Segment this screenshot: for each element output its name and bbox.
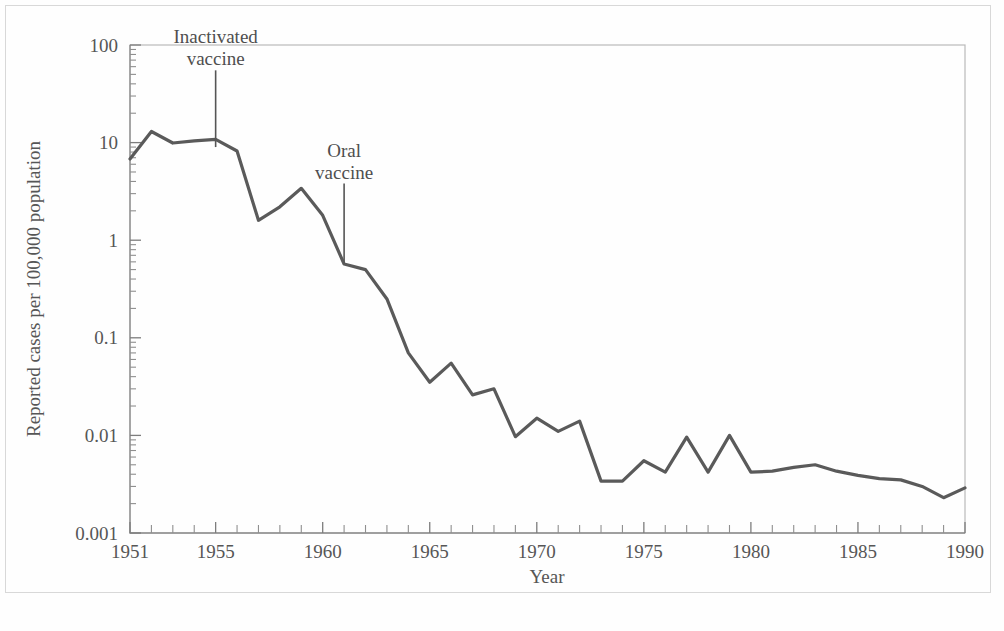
annotation-group: InactivatedvaccineOralvaccine <box>173 26 373 263</box>
x-tick-label: 1975 <box>625 541 663 562</box>
x-tick-label: 1980 <box>732 541 770 562</box>
figure-page: 1001010.10.010.001 195119551960196519701… <box>0 0 1004 631</box>
annotation-label-inactivated-vaccine-line1: Inactivated <box>173 26 258 47</box>
annotation-label-oral-vaccine-line1: Oral <box>327 140 361 161</box>
x-axis-tick-labels: 195119551960196519701975198019851990 <box>111 541 984 562</box>
x-tick-label: 1965 <box>411 541 449 562</box>
y-tick-label: 100 <box>90 35 119 56</box>
y-tick-label: 0.1 <box>94 327 118 348</box>
data-series-line <box>130 131 965 497</box>
x-axis-ticks <box>130 522 965 533</box>
annotation-label-inactivated-vaccine-line2: vaccine <box>187 48 245 69</box>
polio-incidence-line-chart: 1001010.10.010.001 195119551960196519701… <box>0 0 1004 631</box>
x-tick-label: 1970 <box>518 541 556 562</box>
plot-frame <box>130 45 965 533</box>
y-tick-label: 0.01 <box>85 425 118 446</box>
x-axis-title: Year <box>529 566 565 587</box>
x-tick-label: 1951 <box>111 541 149 562</box>
x-tick-label: 1960 <box>304 541 342 562</box>
x-tick-label: 1985 <box>839 541 877 562</box>
y-axis-title: Reported cases per 100,000 population <box>23 140 44 437</box>
y-tick-label: 10 <box>99 132 118 153</box>
y-axis-ticks <box>130 45 141 533</box>
annotation-label-oral-vaccine-line2: vaccine <box>315 162 373 183</box>
x-tick-label: 1990 <box>946 541 984 562</box>
y-tick-label: 1 <box>109 230 119 251</box>
chart-figure: 1001010.10.010.001 195119551960196519701… <box>0 0 1004 631</box>
x-tick-label: 1955 <box>197 541 235 562</box>
y-axis-tick-labels: 1001010.10.010.001 <box>75 35 118 544</box>
axis-lines <box>130 45 965 533</box>
